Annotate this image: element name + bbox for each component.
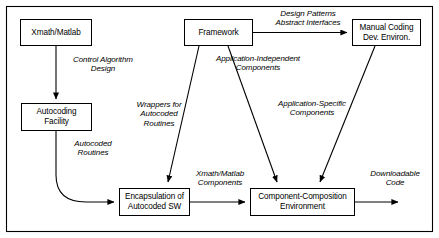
edge-label-autocoded-routines: AutocodedRoutines	[56, 139, 130, 158]
edge-label-application-specific: Application-SpecificComponents	[265, 99, 359, 118]
node-box-framework[interactable]	[185, 20, 253, 46]
edge-label-xmath-matlab-components: Xmath/MatlabComponents	[189, 169, 251, 188]
edge-label-downloadable-code: DownloadableCode	[364, 169, 426, 188]
edge-label-wrappers-for-autocoded-routines: Wrappers forAutocodedRoutines	[124, 100, 194, 128]
node-box-autocoding-facility[interactable]	[22, 104, 92, 131]
node-box-encapsulation[interactable]	[120, 189, 190, 216]
edge-label-application-independent: Application-IndependentComponents	[203, 54, 313, 73]
diagram-canvas: Xmath/Matlab AutocodingFacility Framewor…	[0, 0, 439, 238]
node-box-xmath-matlab[interactable]	[21, 20, 92, 46]
diagram-graphics	[0, 0, 439, 238]
node-box-manual-coding[interactable]	[353, 20, 421, 46]
edge-label-control-algorithm-design: Control AlgorithmDesign	[57, 55, 149, 74]
edge-label-design-patterns: Design PatternsAbstract Interfaces	[262, 9, 354, 28]
node-box-component-composition[interactable]	[251, 189, 355, 216]
